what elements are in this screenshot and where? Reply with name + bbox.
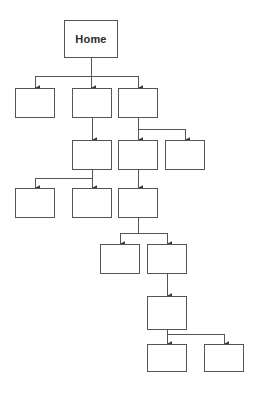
sitemap-diagram: Home [0,0,255,393]
edge-n5-n8 [35,178,92,188]
node-level3-2[interactable] [118,140,158,170]
node-level2-3[interactable] [118,88,158,118]
edge-n1-n4 [91,76,138,88]
node-level7-1[interactable] [147,344,187,372]
edge-n10-n11 [120,218,138,244]
node-level3-3[interactable] [165,140,205,170]
node-level4-2[interactable] [72,188,112,218]
edge-n10-n12 [138,233,167,244]
edge-n13-n15 [167,334,224,344]
edge-n1-n2 [35,76,91,88]
node-level3-1[interactable] [72,140,112,170]
node-home[interactable]: Home [64,20,118,58]
node-level7-2[interactable] [204,344,244,372]
node-level6-1[interactable] [147,296,187,330]
node-level2-2[interactable] [72,88,112,118]
edge-n4-n7 [138,129,185,140]
node-level4-1[interactable] [15,188,55,218]
node-label: Home [75,33,106,45]
node-level4-3[interactable] [118,188,158,218]
node-level5-1[interactable] [100,244,140,274]
node-level5-2[interactable] [147,244,187,274]
node-level2-1[interactable] [15,88,55,118]
